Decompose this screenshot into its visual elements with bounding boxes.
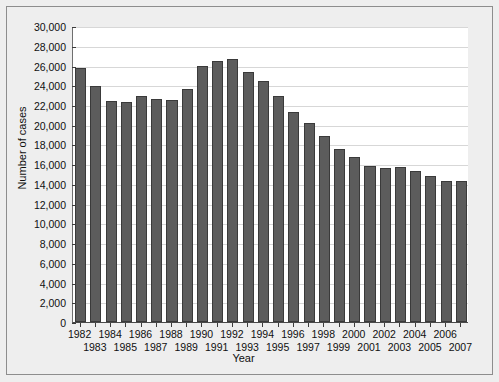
y-axis-tick-label: 10,000 — [34, 219, 66, 229]
y-axis-tick-label: 2,000 — [40, 298, 66, 308]
x-axis-tick-mark — [415, 323, 416, 327]
bar — [212, 61, 223, 322]
x-axis-tick-mark — [262, 323, 263, 327]
x-axis-tick-mark — [201, 323, 202, 327]
y-axis-tick-labels: 30,00028,00026,00024,00022,00020,00018,0… — [0, 0, 66, 382]
bar — [288, 112, 299, 322]
bar — [151, 99, 162, 322]
y-axis-tick-mark — [72, 126, 76, 127]
bar — [258, 81, 269, 322]
x-axis-tick-label: 1998 — [308, 329, 338, 340]
x-axis-tick-label: 1996 — [278, 329, 308, 340]
x-axis-tick-mark — [430, 323, 431, 327]
x-axis-tick-mark — [278, 323, 279, 327]
bar — [166, 100, 177, 322]
y-axis-tick-mark — [72, 224, 76, 225]
plot-area — [72, 27, 468, 323]
y-axis-tick-label: 8,000 — [40, 239, 66, 249]
x-axis-tick-mark — [354, 323, 355, 327]
bar — [90, 86, 101, 322]
bar — [395, 167, 406, 322]
x-axis-tick-mark — [399, 323, 400, 327]
bar — [456, 181, 467, 322]
y-axis-tick-label: 30,000 — [34, 22, 66, 32]
y-axis-tick-mark — [72, 185, 76, 186]
bar — [334, 149, 345, 322]
x-axis-tick-label: 2004 — [400, 329, 430, 340]
y-axis-tick-label: 24,000 — [34, 81, 66, 91]
x-axis-title: Year — [0, 352, 499, 364]
bar — [227, 59, 238, 322]
x-axis-tick-label: 1994 — [247, 329, 277, 340]
bar — [273, 96, 284, 322]
bar-series — [73, 27, 468, 322]
x-axis-tick-label: 1992 — [217, 329, 247, 340]
x-axis-tick-label: 1988 — [156, 329, 186, 340]
y-axis-tick-mark — [72, 264, 76, 265]
x-axis-tick-label: 1984 — [95, 329, 125, 340]
y-axis-tick-mark — [72, 145, 76, 146]
x-axis-tick-mark — [156, 323, 157, 327]
x-axis-tick-mark — [339, 323, 340, 327]
bar — [380, 168, 391, 322]
bar — [106, 101, 117, 322]
bar — [364, 166, 375, 322]
y-axis-tick-label: 16,000 — [34, 160, 66, 170]
y-axis-tick-mark — [72, 47, 76, 48]
bar — [75, 68, 86, 322]
x-axis-tick-mark — [110, 323, 111, 327]
x-axis-tick-mark — [80, 323, 81, 327]
x-axis-tick-mark — [171, 323, 172, 327]
y-axis-tick-mark — [72, 284, 76, 285]
y-axis-tick-label: 28,000 — [34, 42, 66, 52]
y-axis-tick-mark — [72, 205, 76, 206]
y-axis-tick-label: 6,000 — [40, 259, 66, 269]
x-axis-tick-mark — [460, 323, 461, 327]
x-axis-tick-label: 1986 — [126, 329, 156, 340]
bar — [243, 72, 254, 322]
x-axis-tick-mark — [308, 323, 309, 327]
y-axis-tick-label: 26,000 — [34, 62, 66, 72]
bar — [197, 66, 208, 322]
y-axis-title: Number of cases — [16, 78, 28, 218]
bar — [121, 102, 132, 322]
y-axis-tick-mark — [72, 244, 76, 245]
x-axis-tick-label: 2002 — [369, 329, 399, 340]
y-axis-tick-label: 14,000 — [34, 180, 66, 190]
x-axis-tick-mark — [369, 323, 370, 327]
x-axis-tick-mark — [125, 323, 126, 327]
bar — [182, 89, 193, 322]
y-axis-tick-mark — [72, 27, 76, 28]
bar — [425, 176, 436, 322]
x-axis-tick-mark — [293, 323, 294, 327]
y-axis-tick-mark — [72, 67, 76, 68]
y-axis-tick-label: 12,000 — [34, 200, 66, 210]
bar — [304, 123, 315, 322]
bar — [441, 181, 452, 322]
chart-figure: 30,00028,00026,00024,00022,00020,00018,0… — [0, 0, 499, 382]
x-axis-title-text: Year — [232, 352, 254, 364]
x-axis-tick-mark — [247, 323, 248, 327]
x-axis-tick-label: 2006 — [430, 329, 460, 340]
bar — [319, 136, 330, 322]
y-axis-tick-label: 4,000 — [40, 279, 66, 289]
x-axis-tick-label: 1990 — [186, 329, 216, 340]
x-axis-tick-mark — [445, 323, 446, 327]
y-axis-tick-label: 0 — [60, 318, 66, 328]
y-axis-tick-mark — [72, 106, 76, 107]
y-axis-tick-label: 18,000 — [34, 140, 66, 150]
x-axis-tick-label: 2000 — [339, 329, 369, 340]
x-axis-tick-mark — [95, 323, 96, 327]
x-axis-tick-mark — [141, 323, 142, 327]
x-axis-tick-mark — [384, 323, 385, 327]
x-axis-tick-mark — [217, 323, 218, 327]
x-axis-tick-mark — [323, 323, 324, 327]
y-axis-tick-label: 22,000 — [34, 101, 66, 111]
y-axis-tick-mark — [72, 86, 76, 87]
bar — [410, 171, 421, 322]
y-axis-tick-mark — [72, 165, 76, 166]
bar — [349, 157, 360, 322]
y-axis-tick-label: 20,000 — [34, 121, 66, 131]
y-axis-tick-mark — [72, 303, 76, 304]
x-axis-tick-mark — [232, 323, 233, 327]
